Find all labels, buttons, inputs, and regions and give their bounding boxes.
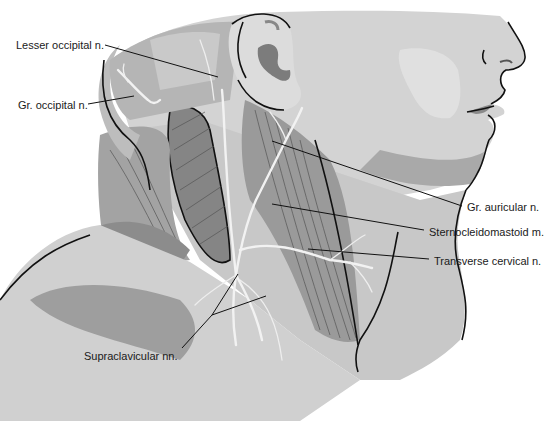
label-supraclavicular-nerves: Supraclavicular nn. — [84, 350, 178, 362]
label-greater-auricular-nerve: Gr. auricular n. — [467, 201, 539, 213]
label-transverse-cervical-nerve: Transverse cervical n. — [434, 255, 541, 267]
label-greater-occipital-nerve: Gr. occipital n. — [18, 99, 88, 111]
neck-nerves-diagram: Lesser occipital n. Gr. occipital n. Gr.… — [0, 0, 554, 421]
label-lesser-occipital-nerve: Lesser occipital n. — [16, 39, 104, 51]
label-sternocleidomastoid-muscle: Sternocleidomastoid m. — [429, 226, 544, 238]
